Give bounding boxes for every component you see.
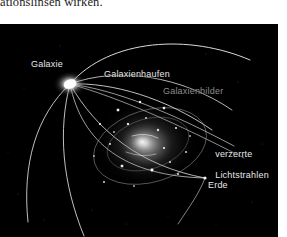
label-source-galaxy: Galaxie: [31, 59, 63, 70]
label-earth: Erde: [208, 180, 228, 191]
gravitational-lensing-figure: Galaxie Galaxienhaufen Galaxienbilder ve…: [0, 24, 278, 237]
page-right-margin: [278, 0, 287, 237]
page-root: ationslinsen wirken.: [0, 0, 287, 237]
label-distorted-line2: Lichtstrahlen: [215, 170, 269, 180]
label-distorted-line1: verzerrte: [215, 149, 252, 159]
label-galaxy-cluster: Galaxienhaufen: [104, 69, 170, 80]
label-galaxy-images: Galaxienbilder: [163, 86, 223, 97]
body-text-fragment: ationslinsen wirken.: [0, 0, 200, 9]
figure-canvas: [0, 24, 278, 237]
